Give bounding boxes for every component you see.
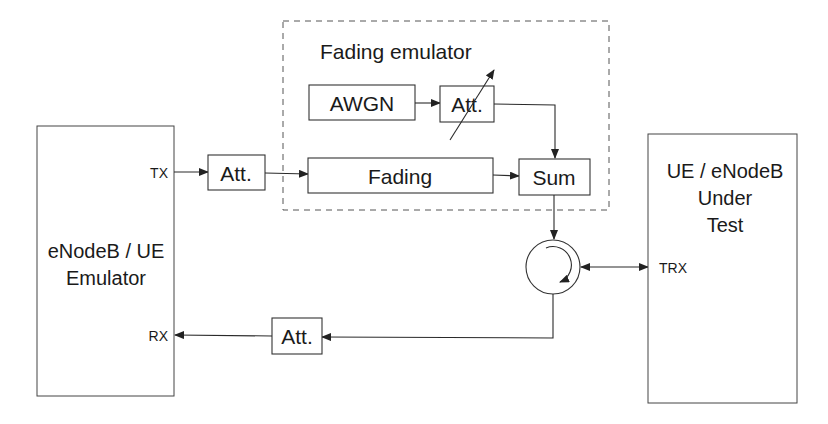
fading-to-sum-arrow [493,175,519,176]
rx-attenuator: Att. [272,318,322,354]
dut-title-line3: Test [707,214,744,236]
dut-title-line1: UE / eNodeB [667,160,784,182]
circulator-to-rx-att-arrow [322,294,553,338]
fading-emulator: Fading emulator AWGN Att. Fading Sum [283,21,609,210]
block-diagram: eNodeB / UE Emulator TX RX Att. Fading e… [0,0,828,424]
enodeb-ue-emulator-block: eNodeB / UE Emulator TX RX [37,126,174,396]
sum-label: Sum [532,166,575,189]
ue-enodeb-under-test-block: UE / eNodeB Under Test TRX [648,134,797,403]
emulator-title-line2: Emulator [66,267,146,289]
circulator [526,240,580,294]
rx-att-to-emulator-arrow [175,335,272,336]
rx-port-label: RX [149,328,169,344]
diagram-canvas: eNodeB / UE Emulator TX RX Att. Fading e… [0,0,828,424]
emulator-title-line1: eNodeB / UE [48,240,165,262]
rx-attenuator-label: Att. [281,325,313,348]
att-to-sum-arrow [494,104,555,158]
trx-port-label: TRX [659,260,688,276]
awgn-label: AWGN [330,92,395,115]
fading-label: Fading [368,165,432,188]
dut-title-line2: Under [698,187,753,209]
fading-emulator-title: Fading emulator [320,40,472,63]
tx-attenuator-label: Att. [220,162,252,185]
att-to-fading-arrow [265,173,308,174]
tx-attenuator: Att. [208,155,265,190]
circulator-circle [526,240,580,294]
tx-port-label: TX [150,165,169,181]
